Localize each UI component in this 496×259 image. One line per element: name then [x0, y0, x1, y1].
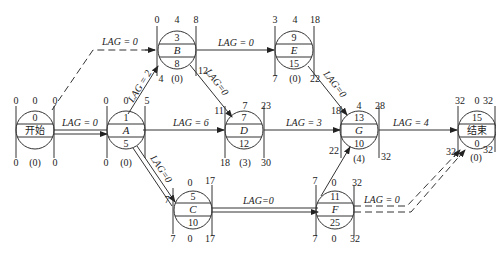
node-C[interactable]: 5 C 10 7 0 17 7 0 17 — [165, 175, 216, 244]
edge-C-F: LAG=0 — [212, 195, 318, 212]
duration-value: 10 — [188, 217, 198, 228]
lag-label: LAG = 0 — [217, 37, 254, 48]
es-value: 7 — [165, 194, 170, 205]
tf-value: 4 — [293, 14, 298, 25]
ff-value: (0) — [470, 152, 482, 164]
es-value: 0 — [104, 95, 109, 106]
node-top-value: 7 — [242, 112, 247, 123]
node-label: G — [355, 124, 363, 136]
node-E[interactable]: 9 E 15 3 4 18 7 (0) 22 — [273, 14, 321, 85]
lf-value: 22 — [310, 73, 320, 84]
lf-value: 32 — [381, 151, 391, 162]
ef-value: 18 — [310, 14, 320, 25]
lf-value: 32 — [350, 233, 360, 244]
node-label: 开始 — [25, 124, 45, 136]
ls-value: 0 — [14, 157, 19, 168]
ls-value: 32 — [446, 146, 456, 157]
tf-value: 0 — [475, 95, 480, 106]
lf-value: 12 — [198, 65, 208, 76]
node-label: B — [174, 44, 181, 56]
node-label: D — [239, 124, 248, 136]
duration-value: 12 — [239, 138, 249, 149]
es-value: 0 — [155, 14, 160, 25]
edge-D-G: LAG = 3 — [264, 117, 340, 130]
node-start[interactable]: 0 开始 0 0 0 0 (0) 0 — [14, 95, 58, 169]
tf-value: 0 — [124, 95, 129, 106]
ff-value: (3) — [239, 157, 251, 169]
lag-label: LAG = 0 — [61, 117, 98, 128]
node-D[interactable]: 7 D 12 11 7 23 18 (3) 30 — [214, 100, 271, 169]
node-top-value: 1 — [124, 112, 129, 123]
node-label: E — [290, 44, 298, 56]
node-label: C — [189, 203, 197, 215]
ls-value: 4 — [159, 73, 164, 84]
network-diagram: LAG = 0 LAG = 0 LAG = 2 LAG = 6 LAG=0 LA… — [0, 0, 496, 259]
node-top-value: 3 — [175, 32, 180, 43]
es-value: 0 — [14, 95, 19, 106]
node-top-value: 11 — [330, 191, 340, 202]
ff-value: (0) — [29, 157, 41, 169]
ls-value: 18 — [220, 157, 230, 168]
ls-value: 0 — [104, 157, 109, 168]
node-top-value: 0 — [33, 112, 38, 123]
ff-value: (0) — [289, 73, 301, 85]
lag-label: LAG=0 — [321, 68, 349, 100]
ls-value: 7 — [171, 233, 176, 244]
ls-value: 7 — [273, 73, 278, 84]
lf-value: 32 — [483, 144, 493, 155]
tf-value: 4 — [175, 14, 180, 25]
tf-value: 7 — [243, 100, 248, 111]
es-value: 18 — [331, 105, 341, 116]
edge-G-end: LAG = 4 — [379, 117, 457, 130]
lag-label: LAG=0 — [242, 195, 274, 206]
ef-value: 23 — [261, 100, 271, 111]
lag-label: LAG = 0 — [363, 194, 400, 205]
ef-value: 28 — [375, 100, 385, 111]
lf-value: 30 — [261, 157, 271, 168]
duration-value: 5 — [124, 138, 129, 149]
ff-value: (0) — [120, 157, 132, 169]
lag-label: LAG = 3 — [285, 117, 322, 128]
edge-B-E: LAG = 0 — [197, 37, 274, 50]
edge-F-end: LAG = 0 — [354, 150, 465, 212]
node-F[interactable]: 11 F 25 7 0 32 7 0 32 — [313, 175, 363, 244]
node-A[interactable]: 1 A 5 0 0 5 0 (0) — [104, 95, 150, 169]
edge-start-A: LAG = 0 — [54, 117, 107, 134]
lf-value: 0 — [53, 157, 58, 168]
ef-value: 32 — [483, 95, 493, 106]
lag-label: LAG = 0 — [101, 36, 138, 47]
duration-value: 15 — [289, 58, 299, 69]
ff-value: (4) — [353, 153, 365, 165]
ef-value: 8 — [194, 14, 199, 25]
edge-A-B: LAG = 2 — [125, 66, 158, 114]
node-label: F — [331, 203, 339, 215]
ef-value: 17 — [205, 175, 215, 186]
tf-value: 0 — [33, 95, 38, 106]
es-value: 3 — [273, 14, 278, 25]
es-value: 11 — [214, 105, 224, 116]
es-value: 7 — [313, 175, 318, 186]
duration-value: 25 — [330, 217, 340, 228]
node-top-value: 9 — [292, 32, 297, 43]
ef-value: 5 — [145, 95, 150, 106]
tf-value: 0 — [188, 177, 193, 188]
node-G[interactable]: 13 G 10 18 4 28 22 (4) 32 — [329, 100, 391, 165]
duration-value: 8 — [175, 58, 180, 69]
duration-value: 0 — [475, 138, 480, 149]
ef-value: 0 — [53, 95, 58, 106]
ff-value: 0 — [188, 233, 193, 244]
ff-value: (0) — [171, 73, 183, 85]
tf-value: 4 — [357, 100, 362, 111]
node-label: A — [122, 124, 130, 136]
node-top-value: 13 — [354, 112, 364, 123]
lag-label: LAG = 4 — [392, 117, 429, 128]
duration-value: 10 — [354, 138, 364, 149]
ls-value: 22 — [329, 145, 339, 156]
tf-value: 0 — [332, 177, 337, 188]
node-top-value: 15 — [472, 112, 482, 123]
ff-value: 0 — [332, 233, 337, 244]
lag-label: LAG = 6 — [172, 117, 209, 128]
es-value: 32 — [455, 95, 465, 106]
ef-value: 32 — [352, 177, 362, 188]
edge-A-D: LAG = 6 — [143, 117, 224, 130]
